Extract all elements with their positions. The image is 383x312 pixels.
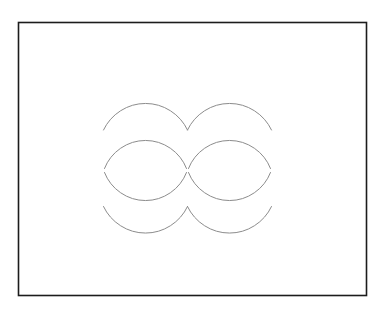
drawing-canvas — [0, 0, 383, 312]
frame-rectangle — [19, 23, 367, 296]
figure-svg — [0, 0, 383, 312]
